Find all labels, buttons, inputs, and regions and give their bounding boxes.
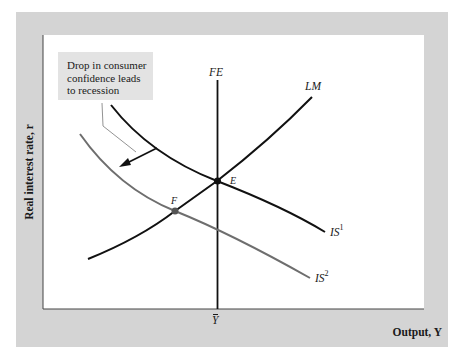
is1-label: IS1 (330, 224, 344, 238)
point-f-label: F (171, 195, 177, 206)
annotation-line-1: Drop in consumer (67, 59, 153, 72)
lm-curve (88, 97, 312, 259)
shift-arrow-shaft (127, 148, 157, 163)
annotation-box: Drop in consumer confidence leads to rec… (58, 52, 153, 100)
x-axis-label: Output, Y (393, 326, 442, 338)
point-f (172, 208, 179, 215)
annotation-line-2: confidence leads (67, 72, 153, 85)
is2-label: IS2 (315, 270, 329, 284)
y-axis-label: Real interest rate, r (18, 35, 40, 309)
fe-label: FE (209, 66, 223, 78)
point-e (214, 178, 221, 185)
shift-arrow-head-icon (119, 158, 131, 167)
x-tick-ybar: Y (212, 314, 218, 326)
annotation-line-3: to recession (67, 84, 153, 97)
lm-label: LM (305, 80, 321, 92)
point-e-label: E (230, 175, 236, 186)
